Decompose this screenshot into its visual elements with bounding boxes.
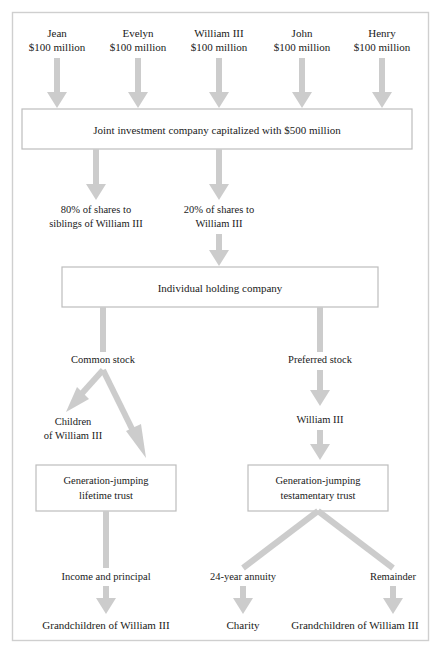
share-split-0-line1: 80% of shares to	[61, 204, 131, 215]
lifetime-trust-line2: lifetime trust	[79, 490, 133, 501]
beneficiary-label-2: Grandchildren of William III	[291, 619, 419, 631]
distribution-label-1: 24-year annuity	[210, 571, 277, 582]
individual-holding-company-label: Individual holding company	[158, 282, 283, 294]
contributor-amount-0: $100 million	[29, 41, 86, 53]
arrow-contributor-0	[47, 58, 67, 108]
contributor-amount-3: $100 million	[274, 41, 331, 53]
arrow-contributor-4	[372, 58, 392, 108]
arrow-share-split-80	[86, 149, 106, 200]
children-label-line2: of William III	[44, 430, 103, 441]
contributor-name-2: William III	[194, 27, 244, 39]
arrow-common-to-children	[66, 370, 103, 412]
testamentary-trust-box	[248, 465, 388, 511]
contributor-name-0: Jean	[47, 27, 67, 39]
distribution-label-2: Remainder	[370, 571, 417, 582]
beneficiary-label-1: Charity	[227, 619, 260, 631]
testamentary-trust-line2: testamentary trust	[281, 490, 356, 501]
arrow-contributor-2	[209, 58, 229, 108]
contributor-amount-4: $100 million	[354, 41, 411, 53]
arrow-share-split-20	[209, 149, 229, 200]
contributor-name-4: Henry	[368, 27, 396, 39]
contributor-name-1: Evelyn	[122, 27, 154, 39]
preferred-stock-label: Preferred stock	[288, 354, 353, 365]
contributor-amount-1: $100 million	[110, 41, 167, 53]
arrow-testamentary-to-annuity	[243, 511, 318, 568]
arrow-contributor-3	[292, 58, 312, 108]
william-iii-label: William III	[296, 414, 344, 425]
arrow-william-to-testamentary-trust	[310, 430, 330, 460]
share-split-1-line2: William III	[195, 218, 243, 229]
testamentary-trust-line1: Generation-jumping	[275, 475, 361, 486]
arrow-contributor-1	[128, 58, 148, 108]
share-split-0-line2: siblings of William III	[49, 218, 143, 229]
contributor-name-3: John	[292, 27, 313, 39]
arrow-testamentary-to-remainder	[318, 511, 393, 568]
arrow-remainder-to-grandchildren	[383, 586, 403, 614]
distribution-label-0: Income and principal	[61, 571, 150, 582]
share-split-1-line1: 20% of shares to	[184, 204, 254, 215]
arrow-annuity-to-charity	[233, 586, 253, 614]
arrow-income-to-grandchildren	[96, 586, 116, 614]
joint-investment-company-label: Joint investment company capitalized wit…	[93, 124, 341, 136]
arrow-preferred-to-william	[310, 370, 330, 406]
arrow-to-holding-company	[209, 234, 229, 266]
lifetime-trust-box	[36, 465, 176, 511]
contributor-amount-2: $100 million	[191, 41, 248, 53]
children-label-line1: Children	[55, 416, 92, 427]
common-stock-label: Common stock	[71, 354, 136, 365]
lifetime-trust-line1: Generation-jumping	[63, 475, 149, 486]
arrow-common-to-lifetime-trust	[103, 370, 146, 458]
estate-plan-flowchart: Jean $100 million Evelyn $100 million Wi…	[0, 0, 441, 657]
beneficiary-label-0: Grandchildren of William III	[42, 619, 170, 631]
